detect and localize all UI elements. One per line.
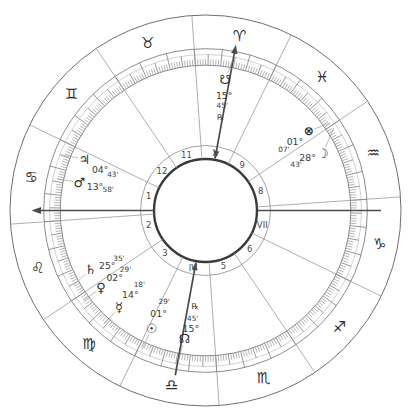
degree-tick <box>308 313 312 317</box>
degree-tick <box>334 139 339 142</box>
degree-tick <box>142 73 145 78</box>
degree-tick <box>238 352 239 358</box>
degree-tick <box>156 348 158 354</box>
degree-tick <box>248 66 250 72</box>
degree-tick <box>85 119 90 123</box>
degree-tick <box>55 228 61 229</box>
degree-tick <box>295 91 299 96</box>
planet-mercury: ☿14°18' <box>104 280 145 324</box>
sign-pisces-glyph: ♓ <box>315 68 328 86</box>
degree-tick <box>72 130 81 136</box>
house-6-label: 6 <box>247 244 252 254</box>
degree-tick <box>74 135 79 138</box>
degree-tick <box>146 71 148 77</box>
degree-tick <box>112 325 116 330</box>
degree-tick <box>347 176 353 177</box>
degree-tick <box>253 67 255 73</box>
degree-tick <box>335 276 340 279</box>
degree-tick <box>265 343 272 358</box>
degree-tick <box>341 156 347 158</box>
sign-aquarius-glyph: ♒ <box>367 144 380 162</box>
degree-tick <box>338 145 353 152</box>
sign-virgo-glyph: ♍ <box>82 335 95 353</box>
degree-tick <box>228 354 230 365</box>
degree-tick <box>306 102 310 106</box>
degree-tick <box>106 96 110 101</box>
degree-tick <box>100 315 104 319</box>
degree-tick <box>184 354 185 360</box>
degree-tick <box>85 298 90 302</box>
degree-tick <box>320 300 325 304</box>
degree-tick <box>248 349 250 355</box>
degree-tick <box>112 91 116 96</box>
degree-tick <box>93 308 97 312</box>
degree-tick <box>65 265 71 267</box>
degree-tick <box>260 70 262 76</box>
degree-tick <box>340 154 346 156</box>
degree-tick <box>226 354 227 360</box>
degree-tick <box>174 63 175 69</box>
degree-tick <box>349 231 355 232</box>
degree-tick <box>64 263 70 265</box>
degree-tick <box>280 335 283 340</box>
degree-tick <box>57 238 63 239</box>
degree-tick <box>63 260 69 262</box>
degree-tick <box>293 327 297 332</box>
degree-tick <box>93 109 97 113</box>
degree-tick <box>102 100 106 104</box>
degree-tick <box>119 87 122 92</box>
degree-tick <box>56 236 62 237</box>
degree-tick <box>327 290 332 293</box>
sign-libra-glyph: ♎ <box>165 376 178 394</box>
degree-tick <box>171 63 172 69</box>
degree-tick <box>246 350 248 356</box>
degree-tick <box>189 355 191 371</box>
sun-minute-label: 29' <box>159 297 170 306</box>
sign-boundary-line <box>257 197 401 207</box>
degree-tick <box>56 187 62 188</box>
jupiter-minute-label: 43' <box>107 170 118 179</box>
house-VII-label: VII <box>257 220 268 230</box>
degree-tick <box>348 241 354 242</box>
degree-tick <box>278 336 281 341</box>
degree-tick <box>315 111 320 115</box>
degree-tick <box>134 77 137 82</box>
degree-tick <box>161 349 163 355</box>
axes <box>32 45 382 375</box>
sign-boundary-line <box>234 253 315 372</box>
degree-tick <box>342 159 348 161</box>
south-node-glyph: ☋ <box>219 72 231 87</box>
degree-tick <box>187 355 188 361</box>
degree-tick <box>333 281 338 284</box>
degree-tick <box>329 287 334 290</box>
degree-tick <box>282 334 285 339</box>
degree-tick <box>346 248 352 250</box>
degree-tick <box>110 323 114 328</box>
degree-tick <box>154 68 156 74</box>
degree-tick <box>108 95 112 100</box>
degree-tick <box>336 144 341 147</box>
chart-canvas: 123IV56VII89X1112♈♉♊♋♌♍♎♏♐♑♒♓♃04°43'♂13°… <box>0 0 409 416</box>
south-node-degree-label: 15° <box>216 90 232 101</box>
sign-aries-glyph: ♈ <box>233 27 246 45</box>
sign-boundary-line <box>252 233 381 296</box>
degree-tick <box>187 60 188 66</box>
sign-sagittarius-glyph: ♐ <box>333 318 346 336</box>
venus-pointer-line <box>83 292 96 302</box>
degree-tick <box>80 126 85 129</box>
degree-tick <box>66 267 72 269</box>
degree-tick <box>339 267 345 269</box>
degree-tick <box>301 320 305 325</box>
degree-tick <box>344 166 350 168</box>
degree-tick <box>349 236 355 237</box>
degree-tick <box>90 304 95 308</box>
degree-tick <box>297 93 301 98</box>
degree-tick <box>107 89 114 97</box>
degree-tick <box>350 192 356 193</box>
mercury-minute-label: 18' <box>134 280 145 289</box>
degree-tick <box>161 66 163 72</box>
degree-tick <box>348 238 359 240</box>
inner-circle <box>154 159 257 262</box>
house-9-label: 9 <box>240 160 245 170</box>
degree-tick <box>322 298 327 302</box>
